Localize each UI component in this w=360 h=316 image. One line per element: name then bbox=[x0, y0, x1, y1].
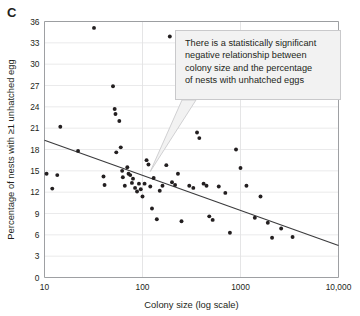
data-point bbox=[259, 194, 263, 198]
regression-line bbox=[45, 140, 339, 245]
data-point bbox=[234, 148, 238, 152]
data-point bbox=[135, 190, 139, 194]
data-point bbox=[161, 184, 165, 188]
data-point bbox=[114, 150, 118, 154]
data-point bbox=[58, 125, 62, 129]
callout-leader-line bbox=[150, 100, 196, 172]
annotation-text: There is a statistically significant neg… bbox=[185, 37, 332, 87]
data-point bbox=[137, 182, 141, 186]
data-point bbox=[168, 34, 172, 38]
data-point bbox=[244, 184, 248, 188]
data-point bbox=[205, 184, 209, 188]
data-point bbox=[239, 166, 243, 170]
data-point bbox=[191, 186, 195, 190]
y-tick-label: 27 bbox=[30, 81, 40, 91]
data-point bbox=[279, 226, 283, 230]
data-point bbox=[170, 180, 174, 184]
data-point bbox=[111, 84, 115, 88]
y-tick-label: 12 bbox=[30, 187, 40, 197]
data-point bbox=[131, 177, 135, 181]
data-point bbox=[150, 207, 154, 211]
data-point bbox=[117, 119, 121, 123]
data-point bbox=[173, 183, 177, 187]
y-tick-label: 3 bbox=[35, 251, 40, 261]
data-point bbox=[195, 130, 199, 134]
data-point bbox=[45, 172, 49, 176]
data-point bbox=[211, 218, 215, 222]
data-point bbox=[291, 235, 295, 239]
data-point bbox=[164, 163, 168, 167]
y-axis-title: Percentage of nests with ≥1 unhatched eg… bbox=[5, 59, 16, 239]
data-point bbox=[114, 112, 118, 116]
data-point bbox=[102, 175, 106, 179]
x-tick-label: 10 bbox=[40, 282, 50, 292]
data-point bbox=[128, 173, 132, 177]
data-point bbox=[133, 186, 137, 190]
data-point bbox=[155, 217, 159, 221]
data-point bbox=[76, 149, 80, 153]
x-tick-label: 1000 bbox=[231, 282, 250, 292]
data-point bbox=[143, 182, 147, 186]
y-tick-label: 33 bbox=[30, 38, 40, 48]
data-point bbox=[158, 189, 162, 193]
panel-label: C bbox=[7, 5, 17, 20]
data-point bbox=[92, 26, 96, 30]
y-tick-label: 9 bbox=[35, 209, 40, 219]
y-tick-label: 24 bbox=[30, 102, 40, 112]
data-point bbox=[50, 187, 54, 191]
data-point bbox=[141, 194, 145, 198]
data-point bbox=[145, 158, 149, 162]
data-point bbox=[152, 176, 156, 180]
y-tick-label: 36 bbox=[30, 17, 40, 27]
y-tick-label: 21 bbox=[30, 123, 40, 133]
data-point bbox=[103, 183, 107, 187]
data-point bbox=[197, 136, 201, 140]
data-point bbox=[148, 185, 152, 189]
data-point bbox=[146, 162, 150, 166]
data-point bbox=[217, 185, 221, 189]
figure-panel-c: C 036912151821242730333610100100010,000C… bbox=[0, 0, 360, 316]
y-tick-label: 15 bbox=[30, 166, 40, 176]
x-tick-label: 100 bbox=[136, 282, 150, 292]
data-point bbox=[253, 216, 257, 220]
data-point bbox=[207, 214, 211, 218]
annotation-callout: There is a statistically significant neg… bbox=[175, 30, 341, 100]
data-point bbox=[123, 184, 127, 188]
data-point bbox=[130, 181, 134, 185]
x-tick-label: 10,000 bbox=[326, 282, 352, 292]
data-point bbox=[125, 165, 129, 169]
data-point bbox=[187, 184, 191, 188]
data-point bbox=[180, 219, 184, 223]
data-point bbox=[121, 175, 125, 179]
data-point bbox=[228, 231, 232, 235]
y-tick-label: 18 bbox=[30, 145, 40, 155]
y-tick-label: 6 bbox=[35, 230, 40, 240]
data-point bbox=[139, 187, 143, 191]
data-point bbox=[270, 236, 274, 240]
x-axis-title: Colony size (log scale) bbox=[144, 299, 238, 310]
data-point bbox=[223, 191, 227, 195]
y-tick-label: 30 bbox=[30, 59, 40, 69]
data-point bbox=[266, 221, 270, 225]
data-point bbox=[113, 107, 117, 111]
data-point bbox=[55, 173, 59, 177]
data-point bbox=[176, 172, 180, 176]
data-point bbox=[119, 145, 123, 149]
data-point bbox=[120, 169, 124, 173]
